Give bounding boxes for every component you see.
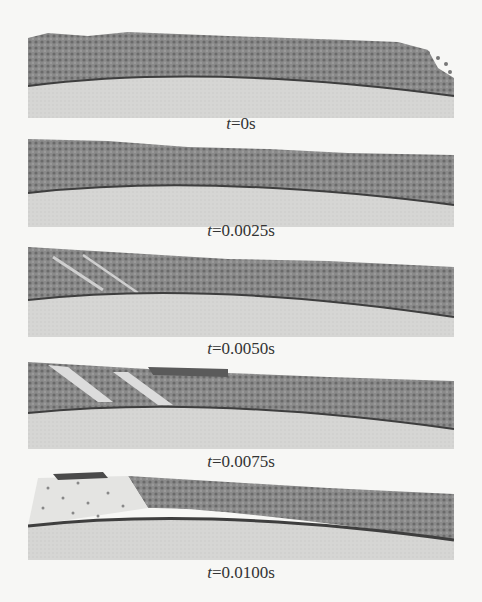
time-value: =0.0025s [212, 221, 275, 240]
snapshot-panel-t0100 [28, 468, 454, 560]
snapshot-panel-t0 [28, 28, 454, 118]
particle-bed-image [28, 245, 454, 337]
particle-bed-image [28, 357, 454, 449]
snapshot-panel-t0050 [28, 245, 454, 337]
particle-bed-image [28, 28, 454, 118]
particle-bed-image [28, 135, 454, 227]
time-label-t0050: t=0.0050s [0, 340, 482, 358]
time-label-t0025: t=0.0025s [0, 222, 482, 240]
time-value: =0.0050s [212, 339, 275, 358]
particle-bed-image [28, 468, 454, 560]
time-value: =0s [231, 114, 256, 133]
time-label-t0: t=0s [0, 115, 482, 133]
time-label-t0100: t=0.0100s [0, 564, 482, 582]
snapshot-panel-t0075 [28, 357, 454, 449]
time-value: =0.0100s [212, 563, 275, 582]
snapshot-panel-t0025 [28, 135, 454, 227]
